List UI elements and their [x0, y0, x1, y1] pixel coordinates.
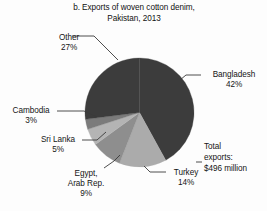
total-exports-line-3: $496 million: [204, 163, 266, 174]
pie-plot-area: [84, 57, 195, 168]
slice-label-turkey: Turkey 14%: [168, 168, 204, 188]
chart-title-line-2: Pakistan, 2013: [48, 14, 220, 25]
pie-chart-figure: b. Exports of woven cotton denim, Pakist…: [0, 0, 267, 211]
total-exports-annotation: Total exports: $496 million: [204, 141, 266, 174]
slice-label-sri-lanka-name: Sri Lanka: [33, 135, 83, 145]
slice-label-other-value: 27%: [46, 43, 92, 53]
slice-label-other: Other 27%: [46, 33, 92, 53]
slice-label-turkey-name: Turkey: [168, 168, 204, 178]
chart-title-line-1: b. Exports of woven cotton denim,: [48, 3, 220, 14]
pie-svg: [84, 57, 195, 168]
pie-slice-other: [85, 58, 139, 119]
chart-title: b. Exports of woven cotton denim, Pakist…: [48, 3, 220, 24]
slice-label-bangladesh: Bangladesh 42%: [203, 70, 265, 90]
slice-label-sri-lanka: Sri Lanka 5%: [33, 135, 83, 155]
total-exports-line-2: exports:: [204, 152, 266, 163]
slice-label-cambodia-value: 3%: [3, 116, 59, 126]
slice-label-egypt-name-line-2: Arab Rep.: [56, 179, 116, 189]
slice-label-egypt: Egypt, Arab Rep. 9%: [56, 169, 116, 200]
slice-label-sri-lanka-value: 5%: [33, 145, 83, 155]
slice-label-egypt-name-line-1: Egypt,: [56, 169, 116, 179]
slice-label-cambodia: Cambodia 3%: [3, 106, 59, 126]
slice-label-bangladesh-name: Bangladesh: [203, 70, 265, 80]
total-exports-line-1: Total: [204, 141, 266, 152]
slice-label-other-name: Other: [46, 33, 92, 43]
slice-label-cambodia-name: Cambodia: [3, 106, 59, 116]
slice-label-turkey-value: 14%: [168, 178, 204, 188]
slice-label-bangladesh-value: 42%: [203, 80, 265, 90]
pie-slice-group: [85, 58, 194, 167]
slice-label-egypt-value: 9%: [56, 189, 116, 199]
